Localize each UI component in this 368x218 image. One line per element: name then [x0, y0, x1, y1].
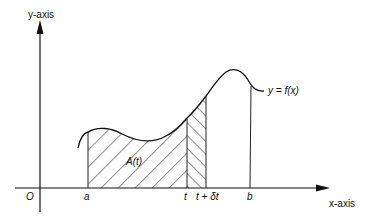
area-a-of-t-hatching: [80, 100, 190, 190]
area-label: A(t): [125, 156, 142, 167]
tick-label-t: t: [184, 191, 188, 202]
y-axis-label: y-axis: [28, 9, 54, 20]
tick-label-a: a: [84, 191, 90, 202]
delta-strip-hatching: [185, 90, 209, 190]
curve-label: y = f(x): [267, 85, 299, 96]
tick-label-t-plus-delta-t: t + δt: [196, 191, 220, 202]
y-axis-arrow-icon: [37, 20, 44, 34]
x-axis-arrow-icon: [316, 185, 330, 192]
origin-label: O: [26, 191, 34, 202]
x-axis-label: x-axis: [329, 198, 355, 209]
ordinate-b: [250, 86, 251, 188]
tick-label-b: b: [247, 191, 253, 202]
area-under-curve-diagram: y-axis x-axis O y = f(x) A(t) a t t + δt…: [0, 0, 368, 218]
